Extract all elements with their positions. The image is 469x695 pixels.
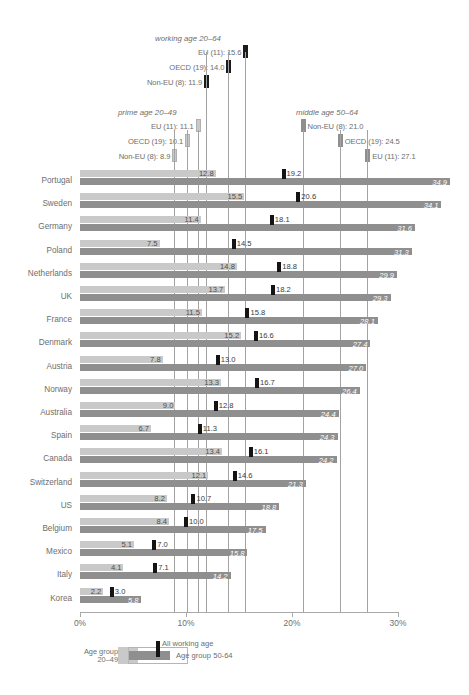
value-middle-age: 24.3 bbox=[0, 433, 335, 442]
value-prime-age: 14.8 bbox=[0, 262, 235, 271]
value-all-working-age: 16.6 bbox=[259, 331, 274, 340]
value-all-working-age: 10.0 bbox=[189, 517, 204, 526]
value-middle-age: 18.8 bbox=[0, 503, 276, 512]
value-all-working-age: 20.6 bbox=[301, 192, 316, 201]
annotation-title-middle-age: middle age 50–64 bbox=[296, 108, 358, 117]
chart-row: France11.515.828.1 bbox=[0, 309, 469, 332]
legend-marker-working bbox=[156, 641, 160, 657]
value-middle-age: 28.1 bbox=[0, 317, 375, 326]
value-middle-age: 27.4 bbox=[0, 340, 367, 349]
value-all-working-age: 10.7 bbox=[196, 494, 211, 503]
annotation-title-prime-age: prime age 20–49 bbox=[118, 108, 177, 117]
value-prime-age: 8.4 bbox=[0, 517, 167, 526]
value-prime-age: 11.5 bbox=[0, 308, 200, 317]
value-prime-age: 7.8 bbox=[0, 355, 161, 364]
value-all-working-age: 3.0 bbox=[115, 587, 126, 596]
chart-legend: Age group 20–49 All working age Age grou… bbox=[70, 638, 290, 678]
chart-row: Poland7.514.531.3 bbox=[0, 240, 469, 263]
chart-row: Denmark15.216.627.4 bbox=[0, 332, 469, 355]
value-prime-age: 9.0 bbox=[0, 401, 173, 410]
value-middle-age: 29.3 bbox=[0, 294, 388, 303]
value-all-working-age: 16.1 bbox=[254, 447, 269, 456]
annotation-label-working-age: OECD (19): 14.0 bbox=[0, 63, 224, 72]
value-all-working-age: 19.2 bbox=[287, 169, 302, 178]
annotation-label-middle-age: Non-EU (8): 21.0 bbox=[308, 122, 364, 131]
value-all-working-age: 7.1 bbox=[158, 563, 169, 572]
value-prime-age: 15.5 bbox=[0, 192, 242, 201]
value-all-working-age: 11.3 bbox=[203, 424, 217, 433]
chart-row: Sweden15.520.634.1 bbox=[0, 193, 469, 216]
value-middle-age: 34.1 bbox=[0, 201, 438, 210]
value-prime-age: 13.3 bbox=[0, 378, 219, 387]
x-axis-line bbox=[80, 612, 398, 613]
value-middle-age: 17.5 bbox=[0, 526, 263, 535]
chart-row: Norway13.316.726.4 bbox=[0, 379, 469, 402]
value-middle-age: 34.9 bbox=[0, 178, 447, 187]
chart-row: Germany11.418.131.6 bbox=[0, 216, 469, 239]
value-prime-age: 6.7 bbox=[0, 424, 149, 433]
value-prime-age: 2.2 bbox=[0, 587, 101, 596]
x-axis-tick-label: 10% bbox=[178, 618, 195, 628]
value-middle-age: 26.4 bbox=[0, 387, 357, 396]
value-all-working-age: 13.0 bbox=[221, 355, 236, 364]
x-axis-tick bbox=[292, 612, 293, 617]
value-all-working-age: 16.7 bbox=[260, 378, 275, 387]
value-prime-age: 13.7 bbox=[0, 285, 223, 294]
value-all-working-age: 12.8 bbox=[219, 401, 234, 410]
chart-row: Mexico5.17.015.8 bbox=[0, 541, 469, 564]
annotation-label-middle-age: OECD (19): 24.5 bbox=[345, 137, 400, 146]
x-axis-tick-label: 30% bbox=[390, 618, 407, 628]
chart-row: US8.210.718.8 bbox=[0, 495, 469, 518]
annotation-label-middle-age: EU (11): 27.1 bbox=[372, 152, 415, 161]
value-prime-age: 15.2 bbox=[0, 331, 239, 340]
chart-row: Austria7.813.027.0 bbox=[0, 356, 469, 379]
value-all-working-age: 18.2 bbox=[276, 285, 291, 294]
chart-row: Belgium8.410.017.5 bbox=[0, 518, 469, 541]
value-prime-age: 8.2 bbox=[0, 494, 165, 503]
x-axis-tick bbox=[186, 612, 187, 617]
value-middle-age: 31.6 bbox=[0, 224, 412, 233]
annotation-label-prime-age: Non-EU (8): 8.9 bbox=[0, 152, 170, 161]
value-prime-age: 12.1 bbox=[0, 471, 206, 480]
value-all-working-age: 7.0 bbox=[157, 540, 168, 549]
chart-row: UK13.718.229.3 bbox=[0, 286, 469, 309]
value-middle-age: 5.8 bbox=[0, 596, 138, 605]
value-all-working-age: 15.8 bbox=[250, 308, 265, 317]
value-middle-age: 29.9 bbox=[0, 271, 394, 280]
value-prime-age: 4.1 bbox=[0, 563, 121, 572]
chart-row: Australia9.012.824.4 bbox=[0, 402, 469, 425]
value-middle-age: 24.4 bbox=[0, 410, 336, 419]
value-middle-age: 31.3 bbox=[0, 248, 409, 257]
chart-row: Korea2.23.05.8 bbox=[0, 588, 469, 611]
value-all-working-age: 18.1 bbox=[275, 215, 290, 224]
chart-row: Switzerland12.114.621.3 bbox=[0, 472, 469, 495]
value-all-working-age: 14.5 bbox=[237, 239, 252, 248]
x-axis-tick-label: 20% bbox=[284, 618, 301, 628]
annotation-label-working-age: Non-EU (8): 11.9 bbox=[0, 78, 202, 87]
value-middle-age: 15.8 bbox=[0, 549, 244, 558]
x-axis-tick bbox=[80, 612, 81, 617]
value-middle-age: 21.3 bbox=[0, 480, 303, 489]
legend-label-prime-line2: 20–49 bbox=[97, 655, 118, 664]
value-all-working-age: 18.8 bbox=[282, 262, 297, 271]
chart-container: working age 20–64EU (11): 15.6OECD (19):… bbox=[0, 0, 469, 695]
chart-row: Netherlands14.818.829.9 bbox=[0, 263, 469, 286]
value-middle-age: 14.2 bbox=[0, 572, 228, 581]
value-prime-age: 12.8 bbox=[0, 169, 214, 178]
chart-row: Canada13.416.124.2 bbox=[0, 448, 469, 471]
annotation-label-prime-age: OECD (19): 10.1 bbox=[0, 137, 183, 146]
value-middle-age: 24.2 bbox=[0, 456, 334, 465]
legend-label-middle: Age group 50-64 bbox=[176, 651, 233, 660]
legend-label-prime: Age group 20–49 bbox=[70, 648, 118, 665]
annotation-title-working-age: working age 20–64 bbox=[155, 34, 221, 43]
value-middle-age: 27.0 bbox=[0, 364, 363, 373]
chart-row: Italy4.17.114.2 bbox=[0, 564, 469, 587]
value-prime-age: 7.5 bbox=[0, 239, 158, 248]
chart-row: Portugal12.819.234.9 bbox=[0, 170, 469, 193]
x-axis-tick-label: 0% bbox=[74, 618, 86, 628]
value-prime-age: 5.1 bbox=[0, 540, 132, 549]
value-prime-age: 13.4 bbox=[0, 447, 220, 456]
x-axis-tick bbox=[398, 612, 399, 617]
legend-label-working: All working age bbox=[162, 639, 214, 648]
chart-row: Spain6.711.324.3 bbox=[0, 425, 469, 448]
